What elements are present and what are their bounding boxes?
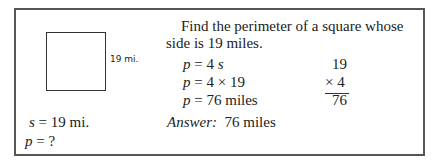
step-var: p — [183, 56, 191, 72]
given-perimeter: p = ? — [25, 133, 55, 150]
given-perimeter-value: = ? — [33, 133, 56, 149]
step-var: p — [183, 92, 191, 108]
step-expr: = 76 miles — [191, 92, 258, 108]
square-figure — [46, 32, 106, 91]
side-length-label: 19 mi. — [110, 54, 138, 64]
answer-value: 76 miles — [225, 114, 276, 130]
calc-result: 76 — [332, 92, 347, 109]
problem-line-1: Find the perimeter of a square whose — [181, 18, 403, 35]
step-expr: = 4 — [191, 56, 218, 72]
step-2: p = 4 × 19 — [183, 74, 245, 91]
calc-multiplier: × 4 — [325, 74, 345, 91]
answer-label: Answer: — [167, 114, 217, 130]
step-1: p = 4 s — [183, 56, 224, 73]
var-p: p — [25, 133, 33, 149]
answer-line: Answer: 76 miles — [167, 114, 276, 131]
given-side: s = 19 mi. — [29, 114, 89, 131]
step-var: p — [183, 74, 191, 90]
calc-top: 19 — [332, 56, 347, 73]
given-side-value: = 19 mi. — [35, 114, 89, 130]
step-3: p = 76 miles — [183, 92, 258, 109]
step-var-s: s — [218, 56, 224, 72]
step-expr: = 4 × 19 — [191, 74, 245, 90]
problem-line-2: side is 19 miles. — [166, 35, 263, 52]
